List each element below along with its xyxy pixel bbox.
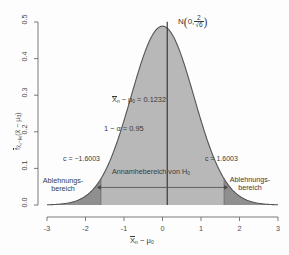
x-tick-label: -3 bbox=[39, 224, 55, 233]
y-axis-title: fX̄n−μ0(x̄ − μ0) bbox=[13, 112, 23, 150]
y-tick-label: 0.3 bbox=[20, 86, 29, 100]
x-tick-label: 2 bbox=[232, 224, 248, 233]
x-tick-label: 3 bbox=[270, 224, 286, 233]
confidence-level-label: 1 − α = 0.95 bbox=[104, 125, 144, 133]
y-tick-label: 0.0 bbox=[20, 196, 29, 210]
rejection-right-line2: bereich bbox=[238, 183, 262, 192]
x-axis bbox=[47, 217, 278, 221]
distribution-mean: 0, bbox=[188, 17, 195, 26]
sd-denominator: √6 bbox=[194, 21, 203, 29]
acceptance-region-shape bbox=[101, 26, 224, 205]
critical-value-high-label: c = 1.6003 bbox=[205, 155, 238, 162]
x-axis-ticks bbox=[47, 217, 278, 221]
plot-canvas bbox=[0, 0, 289, 255]
paren-close: ) bbox=[204, 16, 208, 29]
rejection-region-right-label: Ablehnungs- bereich bbox=[222, 176, 278, 191]
rejection-left-line2: bereich bbox=[51, 184, 75, 193]
distribution-label: N(0,2√6) bbox=[178, 15, 207, 29]
rejection-region-left-label: Ablehnungs- bereich bbox=[37, 177, 89, 192]
sd-fraction: 2√6 bbox=[194, 15, 203, 29]
acceptance-region-label: Annamhebereich von H0 bbox=[112, 168, 190, 176]
x-tick-label: -1 bbox=[116, 224, 132, 233]
statistics-density-figure: 0.00.10.20.30.40.5 -3-2-10123 fX̄n−μ0(x̄… bbox=[0, 0, 289, 255]
x-tick-label: 0 bbox=[155, 224, 171, 233]
x-tick-label: 1 bbox=[193, 224, 209, 233]
y-tick-label: 0.4 bbox=[20, 49, 29, 63]
y-tick-label: 0.5 bbox=[20, 13, 29, 27]
observed-statistic-label: Xn − μ0 = 0.1232 bbox=[112, 96, 166, 104]
x-axis-title: Xn − μ0 bbox=[130, 236, 154, 245]
critical-value-low-label: c = −1.6003 bbox=[63, 155, 100, 162]
x-tick-label: -2 bbox=[78, 224, 94, 233]
y-tick-label: 0.1 bbox=[20, 159, 29, 173]
